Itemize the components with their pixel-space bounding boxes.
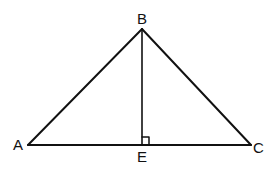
label-b: B bbox=[137, 10, 147, 27]
segment-bc bbox=[142, 29, 251, 145]
label-a: A bbox=[13, 136, 23, 153]
triangle-diagram: B A C E bbox=[0, 0, 277, 171]
diagram-canvas: B A C E bbox=[0, 0, 277, 171]
label-e: E bbox=[137, 148, 147, 165]
segment-ab bbox=[28, 29, 142, 145]
right-angle-marker-icon bbox=[142, 137, 149, 145]
label-c: C bbox=[253, 139, 264, 156]
